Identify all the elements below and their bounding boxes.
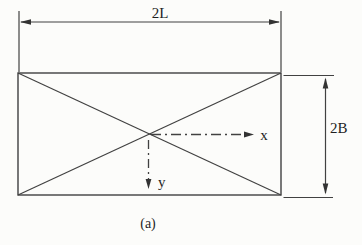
centroid-axes-diagram: 2L 2B x y (a) [0, 0, 362, 245]
figure-caption: (a) [140, 216, 156, 232]
x-axis-arrow-icon [244, 132, 254, 138]
width-dimension: 2L [19, 5, 281, 72]
height-dimension-label: 2B [330, 120, 348, 136]
rectangular-plate-figure: 2L 2B x y (a) [0, 0, 362, 245]
arrow-up-icon [323, 78, 329, 89]
width-dimension-label: 2L [152, 5, 169, 21]
x-axis: x [151, 127, 268, 143]
y-axis-arrow-icon [146, 179, 152, 189]
arrow-left-icon [20, 19, 31, 25]
height-dimension: 2B [284, 76, 348, 198]
y-axis: y [146, 140, 166, 190]
arrow-right-icon [269, 19, 280, 25]
x-axis-label: x [260, 127, 268, 143]
arrow-down-icon [323, 184, 329, 195]
y-axis-label: y [158, 174, 166, 190]
